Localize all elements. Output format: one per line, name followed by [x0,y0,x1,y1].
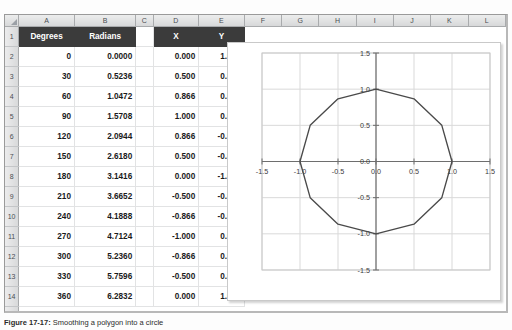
y-tick-label-3: 0.0 [360,157,370,166]
cell-d9-x[interactable]: -0.500 [153,186,199,206]
cell-a1-degrees-header[interactable]: Degrees [19,26,75,46]
cell-d5-x[interactable]: 1.000 [153,106,199,126]
cell-c6[interactable] [136,126,154,146]
cell-b13-radians[interactable]: 5.7596 [74,266,135,286]
cell-d11-x[interactable]: -1.000 [153,226,199,246]
cell-a9-degrees[interactable]: 210 [19,186,75,206]
column-header-d[interactable]: D [153,15,199,26]
cell-a12-degrees[interactable]: 300 [19,246,75,266]
cell-b5-radians[interactable]: 1.5708 [74,106,135,126]
cell-c14[interactable] [136,286,154,306]
row-header-3[interactable]: 3 [5,66,19,86]
cell-d12-x[interactable]: -0.866 [153,246,199,266]
select-all-triangle-icon[interactable] [5,15,19,26]
row-header-4[interactable]: 4 [5,86,19,106]
cell-d6-x[interactable]: 0.866 [153,126,199,146]
cell-a7-degrees[interactable]: 150 [19,146,75,166]
cell-d13-x[interactable]: -0.500 [153,266,199,286]
cell-h15[interactable] [319,306,356,313]
cell-b1-radians-header[interactable]: Radians [74,26,135,46]
column-header-i[interactable]: I [356,15,393,26]
cell-b6-radians[interactable]: 2.0944 [74,126,135,146]
cell-a2-degrees[interactable]: 0 [19,46,75,66]
column-header-g[interactable]: G [282,15,319,26]
cell-b4-radians[interactable]: 1.0472 [74,86,135,106]
row-header-2[interactable]: 2 [5,46,19,66]
row-header-5[interactable]: 5 [5,106,19,126]
cell-a13-degrees[interactable]: 330 [19,266,75,286]
cell-c12[interactable] [136,246,154,266]
column-header-e[interactable]: E [199,15,245,26]
chart-object[interactable]: 1.51.00.50.0-0.5-1.0-1.5-1.5-1.0-0.50.00… [227,42,501,301]
cell-b8-radians[interactable]: 3.1416 [74,166,135,186]
row-header-14[interactable]: 14 [5,286,19,306]
cell-j15[interactable] [393,306,430,313]
column-header-j[interactable]: J [393,15,430,26]
cell-c2[interactable] [136,46,154,66]
cell-d15[interactable] [153,306,199,313]
cell-a10-degrees[interactable]: 240 [19,206,75,226]
cell-a14-degrees[interactable]: 360 [19,286,75,306]
cell-d1-x-header[interactable]: X [153,26,199,46]
cell-i15[interactable] [356,306,393,313]
row-header-10[interactable]: 10 [5,206,19,226]
row-header-13[interactable]: 13 [5,266,19,286]
cell-c3[interactable] [136,66,154,86]
cell-g15[interactable] [282,306,319,313]
cell-b11-radians[interactable]: 4.7124 [74,226,135,246]
cell-d10-x[interactable]: -0.866 [153,206,199,226]
cell-f15[interactable] [244,306,281,313]
cell-k15[interactable] [431,306,468,313]
row-header-15[interactable]: 15 [5,306,19,313]
cell-a8-degrees[interactable]: 180 [19,166,75,186]
cell-b9-radians[interactable]: 3.6652 [74,186,135,206]
cell-b7-radians[interactable]: 2.6180 [74,146,135,166]
cell-b3-radians[interactable]: 0.5236 [74,66,135,86]
cell-a15[interactable] [19,306,75,313]
row-header-8[interactable]: 8 [5,166,19,186]
cell-a11-degrees[interactable]: 270 [19,226,75,246]
cell-d4-x[interactable]: 0.866 [153,86,199,106]
cell-c8[interactable] [136,166,154,186]
column-header-b[interactable]: B [74,15,135,26]
cell-c13[interactable] [136,266,154,286]
column-header-a[interactable]: A [19,15,75,26]
cell-d2-x[interactable]: 0.000 [153,46,199,66]
column-header-c[interactable]: C [136,15,154,26]
cell-a3-degrees[interactable]: 30 [19,66,75,86]
x-tick-label-4: 0.5 [409,167,419,176]
row-header-7[interactable]: 7 [5,146,19,166]
cell-c4[interactable] [136,86,154,106]
column-header-k[interactable]: K [431,15,468,26]
column-header-h[interactable]: H [319,15,356,26]
row-header-1[interactable]: 1 [5,26,19,46]
row-header-11[interactable]: 11 [5,226,19,246]
cell-c11[interactable] [136,226,154,246]
cell-c5[interactable] [136,106,154,126]
cell-d7-x[interactable]: 0.500 [153,146,199,166]
cell-c10[interactable] [136,206,154,226]
cell-b12-radians[interactable]: 5.2360 [74,246,135,266]
table-row[interactable]: 15 [5,306,506,313]
cell-d14-x[interactable]: 0.000 [153,286,199,306]
cell-c9[interactable] [136,186,154,206]
cell-b10-radians[interactable]: 4.1888 [74,206,135,226]
cell-c15[interactable] [136,306,154,313]
cell-b15[interactable] [74,306,135,313]
row-header-6[interactable]: 6 [5,126,19,146]
cell-a4-degrees[interactable]: 60 [19,86,75,106]
cell-b14-radians[interactable]: 6.2832 [74,286,135,306]
cell-d3-x[interactable]: 0.500 [153,66,199,86]
cell-c7[interactable] [136,146,154,166]
cell-c1[interactable] [136,26,154,46]
row-header-12[interactable]: 12 [5,246,19,266]
cell-b2-radians[interactable]: 0.0000 [74,46,135,66]
cell-a5-degrees[interactable]: 90 [19,106,75,126]
column-header-l[interactable]: L [468,15,505,26]
cell-d8-x[interactable]: 0.000 [153,166,199,186]
cell-l15[interactable] [468,306,505,313]
cell-e15[interactable] [199,306,245,313]
row-header-9[interactable]: 9 [5,186,19,206]
column-header-f[interactable]: F [244,15,281,26]
cell-a6-degrees[interactable]: 120 [19,126,75,146]
